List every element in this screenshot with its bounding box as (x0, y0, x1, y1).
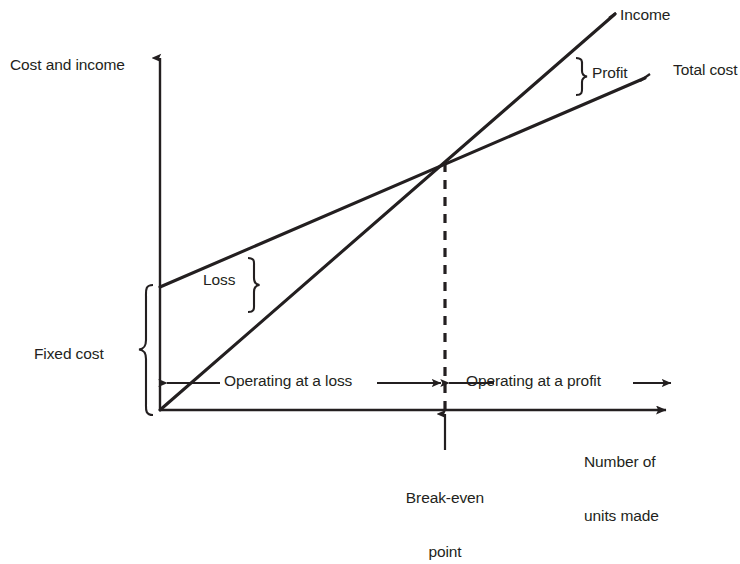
loss-brace (248, 258, 260, 312)
operating-at-a-profit-label: Operating at a profit (466, 372, 601, 390)
break-even-point-label-line2: point (378, 543, 512, 561)
profit-label: Profit (592, 64, 628, 82)
operating-at-a-loss-label: Operating at a loss (224, 372, 352, 390)
profit-brace (576, 58, 587, 95)
y-axis-title: Cost and income (10, 56, 125, 74)
total-cost-label-leader (640, 74, 650, 81)
page-caption-sliver (0, 492, 740, 498)
loss-label: Loss (203, 271, 235, 289)
total-cost-line (160, 78, 645, 287)
fixed-cost-label: Fixed cost (34, 345, 104, 363)
x-axis-title-line1: Number of (584, 453, 659, 471)
x-axis-title-line2: units made (584, 507, 659, 525)
income-label: Income (620, 6, 670, 24)
total-cost-label: Total cost (673, 61, 737, 79)
break-even-point-label: Break-even point (378, 453, 512, 564)
income-line (160, 14, 615, 410)
x-axis-title: Number of units made (584, 417, 659, 561)
fixed-cost-brace (139, 285, 153, 415)
